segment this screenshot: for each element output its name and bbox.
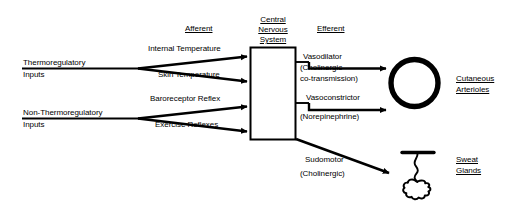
branch-exercise-reflexes: Exercise Reflexes [155,120,218,130]
efferent-sudomotor-line-2: (Cholinergic) [300,169,345,179]
efferent-vasoconstrictor-line-1: Vasoconstrictor [306,93,360,103]
cns-title-line-1: Central [249,15,297,25]
input-thermoregulatory-line-2: Inputs [23,70,45,80]
central-nervous-system-box [251,48,296,140]
input-non-thermoregulatory-line-2: Inputs [23,120,45,130]
sweat-gland-icon [402,153,434,200]
header-efferent: Efferent [317,24,344,34]
input-non-thermoregulatory-line-1: Non-Thermoregulatory [23,108,102,118]
circle-vessel-icon [391,60,438,107]
arrow-internal-temperature [138,57,247,69]
sweat-gland-duct [415,154,418,183]
branch-skin-temperature: Skin Temperature [158,70,220,80]
branch-baroreceptor-reflex: Baroreceptor Reflex [150,94,220,104]
target-sweat-glands-line-1: Sweat [456,155,478,165]
header-afferent: Afferent [185,24,212,34]
efferent-sudomotor-line-1: Sudomotor [305,155,344,165]
diagram-canvas: Afferent Efferent Central Nervous System… [0,0,505,208]
efferent-vasodilator-line-2: (Cholinergic [300,63,342,73]
efferent-vasoconstrictor-line-2: (Norepinephrine) [300,112,359,122]
target-sweat-glands-line-2: Glands [456,166,481,176]
cns-title-line-3: System [249,35,297,45]
vasoconstrictor-pathway [296,103,386,110]
arrow-vasoconstrictor [309,103,386,110]
target-cutaneous-arterioles-line-2: Arterioles [456,85,489,95]
input-thermoregulatory-line-1: Thermoregulatory [23,58,85,68]
branch-internal-temperature: Internal Temperature [148,44,221,54]
efferent-vasodilator-line-1: Vasodilator [303,52,342,62]
efferent-vasodilator-line-3: co-transmission) [300,74,358,84]
cns-title-line-2: Nervous [249,25,297,35]
target-cutaneous-arterioles-line-1: Cutaneous [456,74,494,84]
arrow-baroreceptor-reflex [138,107,247,119]
